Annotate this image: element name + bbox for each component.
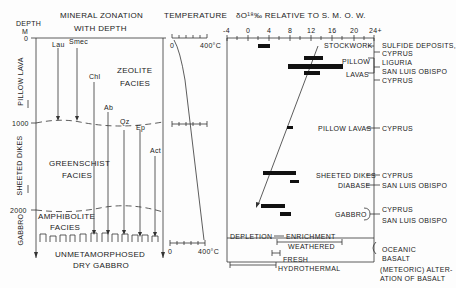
mineral-chl: Chl xyxy=(89,73,100,80)
label-depletion: DEPLETION xyxy=(230,233,272,240)
unit-pillow-lava: PILLOW LAVA xyxy=(17,54,24,110)
facies-unmetamorphosed: UNMETAMORPHOSED xyxy=(55,251,145,259)
loc-cyprus: CYPRUS xyxy=(382,125,413,132)
temp-tick-0-bottom: 0 xyxy=(168,248,172,255)
label-sheeted-dikes: SHEETED DIKES xyxy=(316,172,376,179)
loc-san-luis-obispo: SAN LUIS OBISPO xyxy=(382,182,447,189)
axis-tick: 16 xyxy=(328,27,336,34)
facies-amphibolite: AMPHIBOLITE xyxy=(38,213,95,221)
mineral-title-line2: WITH DEPTH xyxy=(74,25,127,33)
mineral-smec: Smec xyxy=(69,38,88,45)
facies-dry-gabbro: DRY GABBRO xyxy=(73,262,129,270)
temp-tick-400-bottom: 400°C xyxy=(198,248,219,255)
geotherm-curve xyxy=(174,40,204,240)
loc-san-luis-obispo: SAN LUIS OBISPO xyxy=(382,217,447,224)
loc-cyprus: CYPRUS xyxy=(382,206,413,213)
label-stockwork: STOCKWORK xyxy=(324,42,372,49)
mineral-qz: Qz xyxy=(120,118,130,125)
loc-cyprus: CYPRUS xyxy=(382,172,413,179)
loc-sulfide: SULFIDE DEPOSITS, xyxy=(382,42,456,49)
loc-san-luis-obispo: SAN LUIS OBISPO xyxy=(382,68,447,75)
facies-amphibolite-2: FACIES xyxy=(50,224,80,232)
mineral-title-line1: MINERAL ZONATION xyxy=(60,12,143,20)
facies-greenschist: GREENSCHIST xyxy=(49,160,110,168)
depth-label: DEPTH xyxy=(16,20,41,27)
axis-tick: 4 xyxy=(267,27,271,34)
label-lavas: LAVAS xyxy=(346,71,369,78)
depth-tick-1000: 1000 xyxy=(12,120,29,127)
depth-tick-0: 0 xyxy=(24,35,28,42)
mineral-ab: Ab xyxy=(104,104,113,111)
loc-meteoric: (METEORIC) ALTER- xyxy=(380,266,453,273)
depth-unit: M xyxy=(22,28,28,35)
facies-greenschist-2: FACIES xyxy=(62,172,92,180)
isotope-title: δO¹⁸‰ RELATIVE TO S. M. O. W. xyxy=(236,12,366,20)
axis-tick: 12 xyxy=(307,27,315,34)
label-weathered: WEATHERED xyxy=(288,243,335,250)
label-pillow: PILLOW xyxy=(342,58,370,65)
loc-sulfide-cyprus: CYPRUS xyxy=(382,50,413,57)
loc-cyprus: CYPRUS xyxy=(382,77,413,84)
temp-tick-400: 400°C xyxy=(200,42,221,49)
loc-alteration: ATION OF BASALT xyxy=(380,275,445,282)
temp-tick-0: 0 xyxy=(170,42,174,49)
facies-zeolite-2: FACIES xyxy=(120,80,150,88)
facies-zeolite: ZEOLITE xyxy=(117,67,152,75)
axis-tick: -4 xyxy=(223,27,230,34)
label-pillow-lavas: PILLOW LAVAS xyxy=(318,125,372,132)
unit-gabbro: GABBRO xyxy=(17,212,24,248)
label-enrichment: ENRICHMENT xyxy=(286,233,336,240)
mineral-lau: Lau xyxy=(52,41,65,48)
axis-tick: 0 xyxy=(246,27,250,34)
label-hydrothermal: HYDROTHERMAL xyxy=(278,265,340,272)
unit-sheeted-dikes: SHEETED DIKES xyxy=(16,133,23,199)
loc-basalt: BASALT xyxy=(382,255,410,262)
axis-tick: 8 xyxy=(288,27,292,34)
mineral-act: Act xyxy=(150,147,161,154)
temperature-title: TEMPERATURE xyxy=(164,12,227,20)
loc-liguria: LIGURIA xyxy=(382,59,412,66)
loc-oceanic: OCEANIC xyxy=(382,246,416,253)
mineral-ep: Ep xyxy=(136,124,145,131)
axis-tick: 20 xyxy=(350,27,358,34)
axis-tick: 24+ xyxy=(369,27,382,34)
label-fresh: FRESH xyxy=(283,256,308,263)
label-diabase: DIABASE xyxy=(338,182,370,189)
label-gabbro: GABBRO xyxy=(335,211,367,218)
